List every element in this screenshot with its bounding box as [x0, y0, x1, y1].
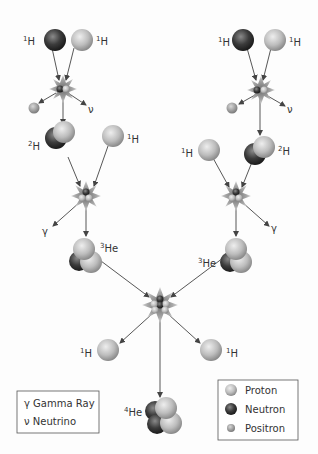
proton-sphere [71, 29, 93, 51]
right-proton: 1H [181, 139, 220, 161]
neutron-sphere [44, 29, 66, 51]
legend-gamma: γ Gamma Ray [24, 398, 95, 409]
right-helium3: 3He [198, 238, 252, 273]
proton-legend-icon [225, 384, 237, 396]
left-step1-reactants: 1H 1H [23, 29, 108, 51]
right-step2-fusion-burst [221, 181, 251, 211]
positron-legend-icon [227, 424, 235, 432]
legend-proton: Proton [245, 385, 277, 396]
released-proton-left: 1H [80, 339, 119, 361]
h1-label: 1H [181, 147, 193, 159]
right-step1-reactants: 1H 1H [218, 29, 301, 51]
h2-label: 2H [28, 140, 40, 152]
left-deuterium: 2H [28, 121, 75, 152]
legend-neutron: Neutron [245, 404, 285, 415]
h1-label: 1H [23, 35, 35, 47]
released-proton-right: 1H [200, 339, 238, 361]
he4-label: 4He [124, 406, 142, 418]
right-deuterium: 2H [244, 136, 290, 165]
neutrino-symbol: ν [88, 104, 94, 115]
he3-label: 3He [100, 242, 118, 254]
right-step1-fusion-burst [247, 76, 275, 104]
h1-label: 1H [226, 347, 238, 359]
gamma-symbol: γ [271, 223, 277, 234]
reaction-arrows [39, 48, 285, 397]
left-step2-fusion-burst [71, 181, 101, 211]
neutron-legend-icon [225, 403, 237, 415]
he3-label: 3He [198, 257, 216, 269]
h1-label: 1H [289, 36, 301, 48]
h1-label: 1H [218, 36, 230, 48]
h2-label: 2H [278, 145, 290, 157]
positron-sphere [227, 103, 238, 114]
legend-neutrino: ν Neutrino [24, 416, 76, 427]
legend-symbols: γ Gamma Ray ν Neutrino [17, 391, 99, 433]
neutrino-symbol: ν [287, 104, 293, 115]
proton-proton-chain-diagram: 1H 1H ν 2H 1H γ 3He 1H 1H [0, 0, 318, 454]
h1-label: 1H [80, 347, 92, 359]
final-fusion-burst [142, 287, 178, 323]
h1-label: 1H [96, 35, 108, 47]
h1-label: 1H [127, 133, 139, 145]
left-step1-fusion-burst [49, 75, 77, 103]
legend-positron: Positron [245, 423, 285, 434]
gamma-symbol: γ [42, 226, 48, 237]
legend-particles: Proton Neutron Positron [218, 380, 298, 440]
left-proton: 1H [102, 125, 139, 147]
left-helium3: 3He [69, 238, 118, 273]
helium4-nucleus: 4He [124, 397, 182, 434]
positron-sphere [29, 103, 40, 114]
